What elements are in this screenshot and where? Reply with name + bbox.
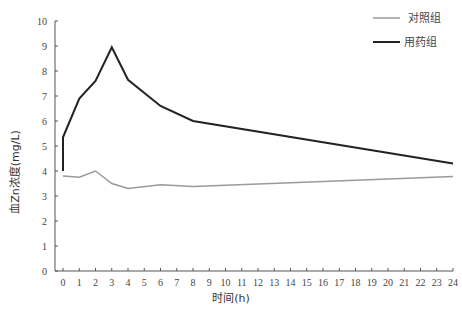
y-tick-label: 2	[42, 216, 47, 227]
x-tick-label: 23	[432, 277, 442, 288]
x-tick-label: 9	[207, 277, 212, 288]
x-axis-title: 时间(h)	[212, 292, 250, 305]
x-tick-label: 0	[61, 277, 66, 288]
x-tick-label: 8	[191, 277, 196, 288]
legend-label-control: 对照组	[408, 11, 441, 25]
y-tick-label: 7	[42, 91, 47, 102]
x-tick-label: 21	[399, 277, 409, 288]
x-tick-label: 13	[269, 277, 279, 288]
y-tick-label: 5	[42, 141, 47, 152]
line-chart: 012345678910 012345678910111213141516171…	[0, 0, 462, 314]
y-tick-label: 0	[42, 266, 47, 277]
x-tick-label: 17	[334, 277, 344, 288]
x-axis: 0123456789101112131415161718192021222324	[55, 268, 458, 288]
x-tick-label: 1	[77, 277, 82, 288]
x-tick-label: 11	[237, 277, 247, 288]
x-tick-label: 3	[109, 277, 114, 288]
control-group-line	[63, 171, 453, 189]
legend-label-drug: 用药组	[404, 35, 437, 49]
y-tick-label: 6	[42, 116, 47, 127]
x-tick-label: 22	[416, 277, 426, 288]
y-tick-label: 9	[42, 41, 47, 52]
y-tick-label: 10	[37, 16, 47, 27]
x-tick-label: 15	[302, 277, 312, 288]
y-tick-label: 4	[42, 166, 47, 177]
y-tick-label: 3	[42, 191, 47, 202]
x-tick-label: 12	[253, 277, 263, 288]
drug-group-line	[63, 47, 453, 171]
x-tick-label: 5	[142, 277, 147, 288]
y-tick-label: 1	[42, 241, 47, 252]
x-tick-label: 4	[126, 277, 131, 288]
x-tick-label: 24	[448, 277, 458, 288]
x-tick-label: 19	[367, 277, 377, 288]
x-tick-label: 20	[383, 277, 393, 288]
x-tick-label: 7	[174, 277, 179, 288]
x-tick-label: 16	[318, 277, 328, 288]
x-tick-label: 18	[351, 277, 361, 288]
x-tick-label: 2	[93, 277, 98, 288]
x-tick-label: 14	[286, 277, 296, 288]
x-tick-label: 10	[221, 277, 231, 288]
y-axis-title: 血Zn浓度(mg/L)	[8, 130, 22, 214]
y-tick-label: 8	[42, 66, 47, 77]
x-tick-label: 6	[158, 277, 163, 288]
series-lines	[63, 47, 453, 188]
y-axis: 012345678910	[37, 16, 58, 277]
legend: 对照组 用药组	[373, 11, 441, 49]
